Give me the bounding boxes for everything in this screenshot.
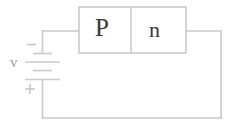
n-region-label: n — [149, 19, 160, 41]
p-region-label: P — [95, 15, 109, 40]
source-voltage-label: v — [10, 55, 18, 70]
plus-sign-icon — [25, 84, 35, 94]
circuit-diagram-canvas: P n v — [0, 0, 235, 127]
circuit-svg — [0, 0, 235, 127]
right-wire — [186, 31, 221, 118]
